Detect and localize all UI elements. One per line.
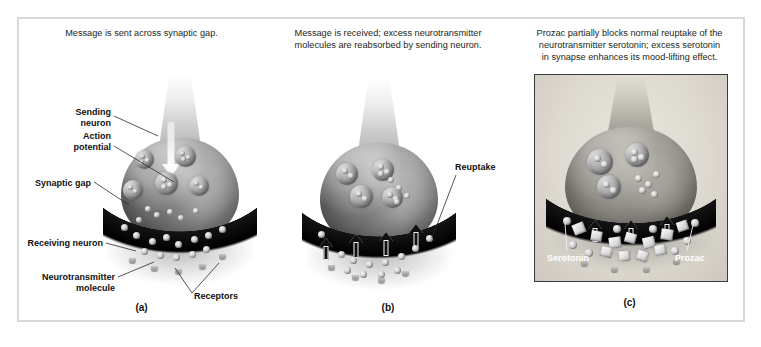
panel-a-letter: (a) <box>19 302 264 313</box>
leader-lines-a <box>19 19 264 324</box>
panel-c-caption: Prozac partially blocks normal reuptake … <box>512 27 747 64</box>
panel-c-image-frame: Serotonin Prozac <box>534 74 728 282</box>
leader-lines-b <box>264 19 512 324</box>
panel-c: Prozac partially blocks normal reuptake … <box>512 19 747 320</box>
panel-b: Message is received; excess neurotransmi… <box>264 19 512 320</box>
leader-lines-c <box>535 75 728 282</box>
figure-container: Message is sent across synaptic gap. <box>17 17 745 322</box>
panel-b-letter: (b) <box>264 302 512 313</box>
panel-a: Message is sent across synaptic gap. <box>19 19 264 320</box>
panel-c-letter: (c) <box>512 297 747 308</box>
